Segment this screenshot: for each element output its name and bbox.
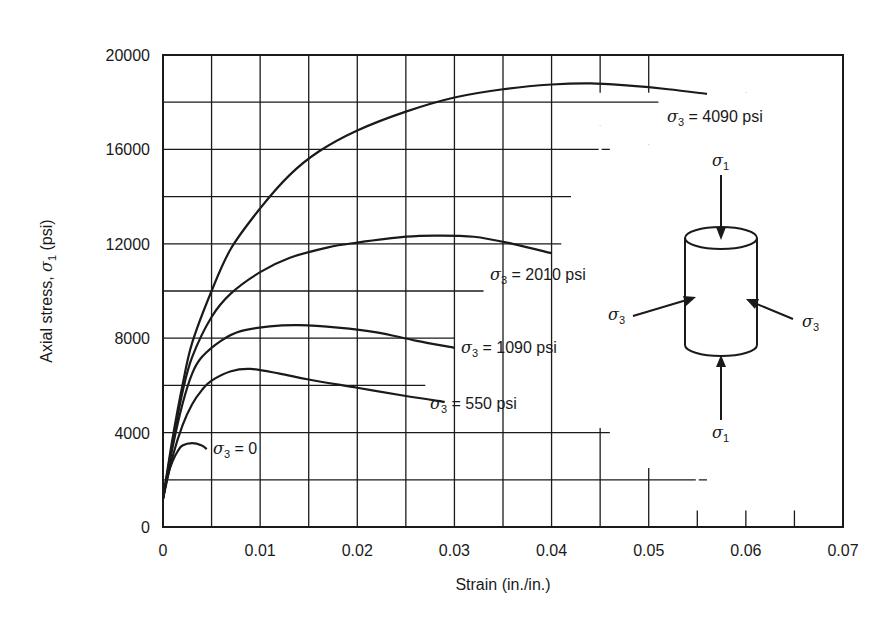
x-tick-label: 0.07 (827, 542, 858, 559)
arrow-sigma3-right (752, 302, 793, 319)
stress-strain-chart: 00.010.020.030.040.050.060.07 0400080001… (0, 0, 895, 624)
x-tick-label: 0 (159, 542, 168, 559)
y-tick-label: 0 (141, 519, 150, 536)
arrow-sigma3-left (633, 299, 690, 316)
y-axis-title: Axial stress, σ1 (psi) (37, 219, 58, 362)
curve-label: σ3 = 1090 psi (461, 338, 557, 359)
curve-label: σ3 = 2010 psi (490, 265, 586, 286)
y-tick-label: 16000 (106, 141, 151, 158)
curve-label: σ3 = 4090 psi (667, 107, 763, 128)
curve-label: σ3 = 550 psi (430, 394, 517, 415)
y-axis-ticks: 040008000120001600020000 (106, 47, 151, 536)
specimen-diagram (633, 175, 793, 420)
label-sigma1-top: σ1 (712, 151, 729, 172)
x-axis-title: Strain (in./in.) (455, 576, 550, 593)
y-tick-label: 12000 (106, 236, 151, 253)
arrow-head-down-icon (716, 227, 726, 240)
x-tick-label: 0.01 (245, 542, 276, 559)
label-sigma3-left: σ3 (608, 305, 625, 326)
y-tick-label: 8000 (114, 330, 150, 347)
grid-lines (163, 55, 794, 527)
y-tick-label: 20000 (106, 47, 151, 64)
label-sigma3-right: σ3 (802, 312, 819, 333)
x-tick-label: 0.02 (342, 542, 373, 559)
curve-label: σ3 = 0 (213, 439, 257, 460)
x-tick-label: 0.05 (633, 542, 664, 559)
y-tick-label: 4000 (114, 425, 150, 442)
x-tick-label: 0.03 (439, 542, 470, 559)
x-axis-ticks: 00.010.020.030.040.050.060.07 (159, 542, 859, 559)
curve-labels: σ3 = 0σ3 = 550 psiσ3 = 1090 psiσ3 = 2010… (213, 107, 763, 460)
label-sigma1-bottom: σ1 (712, 423, 729, 444)
x-tick-label: 0.06 (730, 542, 761, 559)
x-tick-label: 0.04 (536, 542, 567, 559)
